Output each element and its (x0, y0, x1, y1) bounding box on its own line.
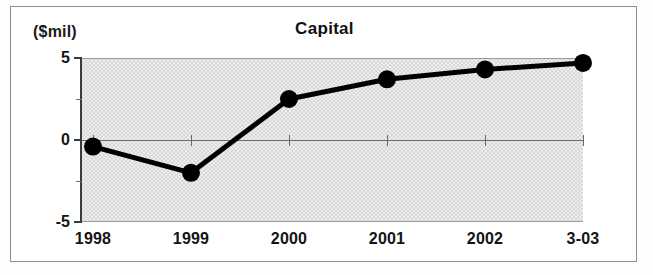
plot-area (81, 58, 583, 222)
x-tick-label: 3-03 (538, 230, 628, 248)
y-tick-minor (76, 181, 82, 182)
x-tick-label: 2000 (244, 230, 334, 248)
x-tick-mark (93, 135, 94, 146)
x-tick-mark (289, 135, 290, 146)
y-tick-label: -5 (20, 214, 70, 230)
x-tick-label: 1999 (146, 230, 236, 248)
chart-frame: ($mil) Capital 50-5 19981999200020012002… (10, 6, 637, 262)
x-tick-label: 2001 (342, 230, 432, 248)
x-tick-mark (583, 135, 584, 146)
y-tick-minor (76, 99, 82, 100)
x-tick-label: 2002 (440, 230, 530, 248)
plot-top-rule (81, 58, 583, 59)
zero-baseline (81, 140, 583, 141)
y-tick-label: 5 (20, 50, 70, 66)
y-tick-label: 0 (20, 132, 70, 148)
plot-bottom-rule (81, 221, 583, 222)
x-tick-mark (191, 135, 192, 146)
x-tick-mark (485, 135, 486, 146)
chart-title: Capital (11, 19, 638, 39)
scan-surface: ($mil) Capital 50-5 19981999200020012002… (0, 0, 653, 275)
y-tick-major (74, 57, 82, 59)
y-tick-major (74, 221, 82, 223)
x-tick-label: 1998 (48, 230, 138, 248)
x-tick-mark (387, 135, 388, 146)
y-tick-major (74, 139, 82, 141)
